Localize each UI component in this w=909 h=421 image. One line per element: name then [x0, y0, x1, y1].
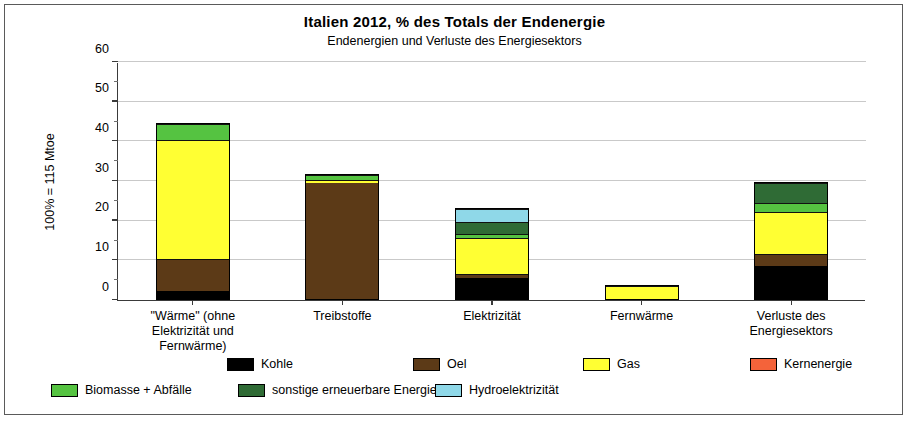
y-axis-tick-label: 0 — [102, 280, 109, 294]
chart-frame: Italien 2012, % des Totals der Endenergi… — [4, 4, 903, 415]
legend-label: Kernenergie — [784, 357, 852, 371]
bar-segment — [456, 278, 528, 299]
bar-2[interactable] — [305, 174, 379, 300]
y-axis-tick-label: 30 — [95, 161, 109, 175]
y-axis-tick-minor — [114, 81, 118, 82]
legend-item[interactable]: Biomasse + Abfälle — [51, 383, 192, 397]
x-axis-category-line: Energiesektors — [716, 324, 866, 339]
gridline — [118, 101, 866, 102]
bar-segment — [456, 209, 528, 222]
plot-area: 0102030405060"Wärme" (ohneElektrizität u… — [117, 63, 865, 301]
bar-segment — [157, 291, 229, 299]
bar-segment — [755, 183, 827, 203]
legend-item[interactable]: Kohle — [227, 357, 293, 371]
legend-swatch-icon — [583, 358, 610, 371]
x-axis-category-label: Verluste desEnergiesektors — [716, 309, 866, 339]
legend-swatch-icon — [227, 358, 254, 371]
legend-item[interactable]: Hydroelektrizität — [435, 383, 559, 397]
bar-segment — [755, 254, 827, 266]
legend-swatch-icon — [435, 384, 462, 397]
bar-segment — [456, 222, 528, 235]
y-axis-tick-minor — [114, 240, 118, 241]
y-axis-tick-major — [112, 299, 118, 300]
y-axis-tick-major — [112, 100, 118, 101]
bar-segment — [456, 234, 528, 237]
legend-label: Oel — [447, 357, 466, 371]
legend-row-1: KohleOelGasKernenergie — [5, 357, 904, 383]
y-axis-tick-major — [112, 180, 118, 181]
y-axis-tick-label: 60 — [95, 42, 109, 56]
bar-4[interactable] — [605, 285, 679, 300]
chart-legend: KohleOelGasKernenergie Biomasse + Abfäll… — [5, 357, 904, 409]
bar-1[interactable] — [156, 123, 230, 300]
y-axis-tick-major — [112, 140, 118, 141]
legend-label: Biomasse + Abfälle — [85, 383, 192, 397]
chart-title: Italien 2012, % des Totals der Endenergi… — [5, 13, 904, 30]
legend-label: Kohle — [261, 357, 293, 371]
legend-label: sonstige erneuerbare Energie — [272, 383, 437, 397]
bar-segment — [755, 203, 827, 212]
x-axis-tick — [491, 300, 492, 305]
y-axis-title: 100% = 115 Mtoe — [41, 63, 59, 301]
bar-segment — [157, 124, 229, 139]
y-axis-tick-label: 20 — [95, 200, 109, 214]
x-axis-category-line: Elektrizität — [417, 309, 567, 324]
y-axis-tick-minor — [114, 279, 118, 280]
bar-5[interactable] — [754, 182, 828, 300]
x-axis-tick — [791, 300, 792, 305]
bar-segment — [456, 274, 528, 278]
legend-row-2: Biomasse + Abfällesonstige erneuerbare E… — [5, 383, 904, 409]
y-axis-tick-minor — [114, 121, 118, 122]
bar-segment — [306, 175, 378, 181]
legend-item[interactable]: Kernenergie — [750, 357, 852, 371]
x-axis-category-label: Elektrizität — [417, 309, 567, 324]
y-axis-tick-minor — [114, 200, 118, 201]
x-axis-tick — [641, 300, 642, 305]
x-axis-category-line: "Wärme" (ohne — [118, 309, 268, 324]
legend-label: Gas — [617, 357, 640, 371]
legend-swatch-icon — [238, 384, 265, 397]
legend-item[interactable]: sonstige erneuerbare Energie — [238, 383, 437, 397]
legend-item[interactable]: Gas — [583, 357, 640, 371]
legend-item[interactable]: Oel — [413, 357, 466, 371]
x-axis-tick — [342, 300, 343, 305]
legend-swatch-icon — [413, 358, 440, 371]
bar-segment — [606, 287, 678, 299]
x-axis-category-line: Fernwärme — [567, 309, 717, 324]
y-axis-tick-label: 10 — [95, 240, 109, 254]
bar-segment — [157, 140, 229, 259]
gridline — [118, 61, 866, 62]
bar-3[interactable] — [455, 208, 529, 300]
bar-segment — [456, 238, 528, 275]
x-axis-category-line: Elektrizität und — [118, 324, 268, 339]
legend-swatch-icon — [51, 384, 78, 397]
y-axis-tick-major — [112, 219, 118, 220]
y-axis-tick-major — [112, 259, 118, 260]
bar-segment — [306, 180, 378, 182]
bar-segment — [755, 266, 827, 299]
y-axis-title-label: 100% = 115 Mtoe — [43, 133, 57, 230]
bar-segment — [755, 212, 827, 254]
x-axis-category-label: "Wärme" (ohneElektrizität undFernwärme) — [118, 309, 268, 354]
x-axis-category-label: Fernwärme — [567, 309, 717, 324]
bar-segment — [157, 259, 229, 291]
chart-subtitle: Endenergien und Verluste des Energiesekt… — [5, 34, 904, 48]
x-axis-category-label: Treibstoffe — [267, 309, 417, 324]
x-axis-tick — [192, 300, 193, 305]
bar-segment — [606, 286, 678, 287]
legend-label: Hydroelektrizität — [469, 383, 559, 397]
bar-segment — [306, 183, 378, 299]
x-axis-category-line: Verluste des — [716, 309, 866, 324]
y-axis-tick-major — [112, 61, 118, 62]
x-axis-category-line: Treibstoffe — [267, 309, 417, 324]
gridline — [118, 140, 866, 141]
legend-swatch-icon — [750, 358, 777, 371]
y-axis-tick-label: 40 — [95, 121, 109, 135]
y-axis-tick-label: 50 — [95, 81, 109, 95]
x-axis-category-line: Fernwärme) — [118, 339, 268, 354]
y-axis-tick-minor — [114, 160, 118, 161]
